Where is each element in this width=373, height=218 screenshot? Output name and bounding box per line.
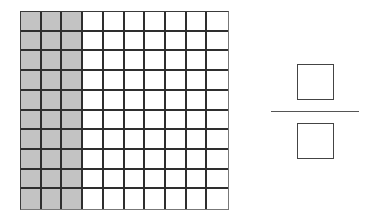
grid-cell [104, 130, 125, 150]
grid-cell [83, 130, 104, 150]
grid-cell [125, 51, 146, 71]
grid-cell-shaded [62, 150, 83, 170]
grid-cell [166, 91, 187, 111]
grid-cell-shaded [62, 32, 83, 52]
grid-cell [187, 130, 208, 150]
grid-cell-shaded [62, 189, 83, 209]
grid-cell [187, 12, 208, 32]
grid-cell [83, 12, 104, 32]
grid-cell [125, 111, 146, 131]
grid-cell [145, 130, 166, 150]
grid-cell [187, 111, 208, 131]
grid-cell-shaded [62, 91, 83, 111]
grid-cell-shaded [42, 130, 63, 150]
grid-cell [145, 71, 166, 91]
grid-cell [207, 32, 228, 52]
grid-cell-shaded [42, 170, 63, 190]
grid-cell [83, 170, 104, 190]
grid-cell-shaded [21, 189, 42, 209]
grid-cell [145, 12, 166, 32]
grid-cell [187, 91, 208, 111]
grid-cell [125, 170, 146, 190]
grid-cell [166, 71, 187, 91]
grid-cell [125, 130, 146, 150]
grid-cell [207, 91, 228, 111]
grid-cell [145, 91, 166, 111]
grid-cell [207, 51, 228, 71]
grid-cell-shaded [21, 71, 42, 91]
grid-cell [187, 150, 208, 170]
grid-cell [187, 51, 208, 71]
grid-cell [187, 170, 208, 190]
grid-cell-shaded [62, 71, 83, 91]
grid-cell [125, 32, 146, 52]
grid-cell [207, 170, 228, 190]
grid-cell [104, 189, 125, 209]
grid-cell [125, 189, 146, 209]
grid-cell [145, 51, 166, 71]
grid-cell-shaded [62, 12, 83, 32]
denominator-box[interactable] [297, 123, 334, 159]
grid-cell [104, 150, 125, 170]
hundred-grid [20, 11, 229, 210]
grid-cell [125, 91, 146, 111]
grid-cell [166, 12, 187, 32]
grid-cell [125, 150, 146, 170]
grid-cell [207, 130, 228, 150]
grid-cell [83, 71, 104, 91]
fraction-bar [271, 111, 359, 112]
grid-cell [104, 12, 125, 32]
grid-cell [104, 111, 125, 131]
grid-cell [145, 111, 166, 131]
grid-cell [207, 150, 228, 170]
grid-cell [125, 12, 146, 32]
grid-cell-shaded [21, 130, 42, 150]
grid-cell-shaded [42, 12, 63, 32]
grid-cell-shaded [42, 189, 63, 209]
grid-cell-shaded [42, 71, 63, 91]
grid-cell-shaded [21, 150, 42, 170]
grid-cell [207, 12, 228, 32]
grid-cell-shaded [62, 130, 83, 150]
grid-cell [166, 32, 187, 52]
grid-cell-shaded [21, 12, 42, 32]
grid-cell-shaded [21, 32, 42, 52]
grid-cell [145, 32, 166, 52]
grid-cell [166, 111, 187, 131]
grid-cell [83, 111, 104, 131]
grid-cell-shaded [42, 32, 63, 52]
grid-cell-shaded [42, 111, 63, 131]
grid-cell [145, 170, 166, 190]
grid-cell-shaded [21, 51, 42, 71]
grid-cell-shaded [42, 150, 63, 170]
grid-cell-shaded [62, 51, 83, 71]
numerator-box[interactable] [297, 64, 334, 100]
grid-cell-shaded [62, 111, 83, 131]
grid-cell [104, 51, 125, 71]
grid-cell [207, 111, 228, 131]
grid-cell [83, 51, 104, 71]
grid-cell [83, 150, 104, 170]
grid-cell-shaded [62, 170, 83, 190]
grid-cell [104, 32, 125, 52]
grid-cell [125, 71, 146, 91]
grid-cell [83, 32, 104, 52]
grid-cell [166, 170, 187, 190]
grid-cell [166, 150, 187, 170]
grid-cell [207, 71, 228, 91]
grid-cell [104, 91, 125, 111]
grid-cell-shaded [21, 170, 42, 190]
grid-cell [166, 130, 187, 150]
grid-cell [187, 32, 208, 52]
grid-cell [187, 71, 208, 91]
grid-cell-shaded [21, 111, 42, 131]
grid-cell-shaded [21, 91, 42, 111]
grid-cell [83, 189, 104, 209]
grid-cell [207, 189, 228, 209]
grid-cell [145, 189, 166, 209]
grid-cell-shaded [42, 51, 63, 71]
grid-cell [104, 71, 125, 91]
grid-cell [187, 189, 208, 209]
grid-cell [83, 91, 104, 111]
grid-cell [104, 170, 125, 190]
